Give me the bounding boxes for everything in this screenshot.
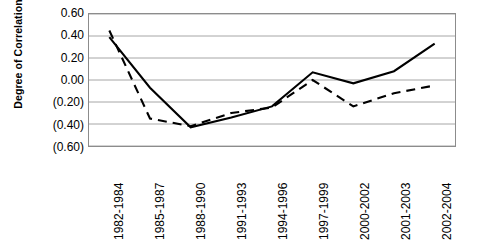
y-axis-tick-label: (0.60) (32, 141, 84, 153)
plot-area (88, 13, 456, 147)
x-axis-tick-label: 2001-2003 (400, 148, 413, 240)
y-axis-tick-labels: 0.600.400.200.00(0.20)(0.40)(0.60) (32, 8, 84, 148)
x-axis-tick-label: 1982-1984 (113, 148, 126, 240)
series-line-2 (109, 31, 434, 127)
series-line-1 (109, 37, 434, 127)
x-axis-tick-labels: 1982-19841985-19871988-19901991-19931994… (88, 148, 456, 242)
x-axis-tick-label: 1988-1990 (195, 148, 208, 240)
x-axis-tick-label: 2000-2002 (359, 148, 372, 240)
y-axis-tick-label: 0.20 (32, 52, 84, 64)
y-axis-tick-label: 0.00 (32, 74, 84, 86)
plot-svg (89, 14, 455, 146)
y-axis-title: Degree of Correlation (12, 0, 24, 124)
x-axis-tick-label: 2002-2004 (441, 148, 454, 240)
x-axis-tick-label: 1997-1999 (318, 148, 331, 240)
y-axis-tick-label: 0.40 (32, 29, 84, 41)
series-group (109, 31, 434, 128)
y-axis-tick-label: (0.40) (32, 119, 84, 131)
x-axis-tick-label: 1985-1987 (154, 148, 167, 240)
y-axis-tick-label: 0.60 (32, 7, 84, 19)
y-axis-tick-label: (0.20) (32, 96, 84, 108)
x-axis-tick-label: 1991-1993 (236, 148, 249, 240)
correlation-line-chart: Degree of Correlation 0.600.400.200.00(0… (0, 0, 477, 242)
x-axis-tick-label: 1994-1996 (277, 148, 290, 240)
